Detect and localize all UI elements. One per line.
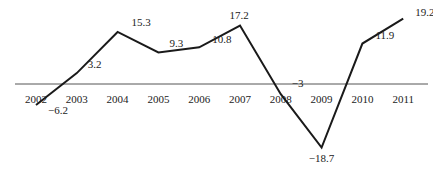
x-tick-label: 2010 xyxy=(351,93,374,105)
data-value-label: 9.3 xyxy=(169,37,183,49)
value-labels: −6.23.215.39.310.817.2−3−18.711.919.2 xyxy=(48,6,433,164)
x-tick-label: 2007 xyxy=(229,93,252,105)
data-value-label: 3.2 xyxy=(88,58,102,70)
x-tick-label: 2006 xyxy=(188,93,211,105)
data-value-label: −3 xyxy=(292,77,304,89)
data-value-label: 10.8 xyxy=(212,33,232,45)
data-value-label: 15.3 xyxy=(132,16,152,28)
x-tick-label: 2003 xyxy=(66,93,89,105)
x-tick-label: 2005 xyxy=(147,93,170,105)
x-tick-label: 2009 xyxy=(311,93,334,105)
data-value-label: −18.7 xyxy=(309,152,335,164)
data-value-label: 17.2 xyxy=(229,9,248,21)
line-chart: 2002200320042005200620072008200920102011… xyxy=(0,0,433,171)
data-value-label: 19.2 xyxy=(415,6,433,18)
data-value-label: 11.9 xyxy=(375,29,394,41)
x-axis-labels: 2002200320042005200620072008200920102011 xyxy=(25,93,414,105)
x-tick-label: 2011 xyxy=(392,93,414,105)
x-tick-label: 2004 xyxy=(107,93,130,105)
data-value-label: −6.2 xyxy=(48,104,68,116)
